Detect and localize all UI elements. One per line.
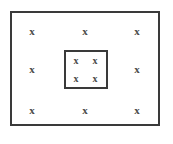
outer-x-marker-top-left: x	[26, 25, 38, 37]
outer-x-marker-bottom-left: x	[26, 104, 38, 116]
outer-x-marker-middle-left: x	[26, 63, 38, 75]
outer-x-marker-bottom-right: x	[131, 104, 143, 116]
outer-x-marker-top-center: x	[79, 25, 91, 37]
inner-x-marker-bottom-right: x	[89, 73, 101, 85]
diagram-canvas: xxxxxxxxxxxx	[0, 0, 173, 144]
outer-x-marker-bottom-center: x	[79, 104, 91, 116]
outer-x-marker-middle-right: x	[131, 63, 143, 75]
inner-x-marker-top-right: x	[89, 55, 101, 67]
inner-x-marker-top-left: x	[70, 55, 82, 67]
inner-x-marker-bottom-left: x	[70, 73, 82, 85]
outer-x-marker-top-right: x	[131, 25, 143, 37]
